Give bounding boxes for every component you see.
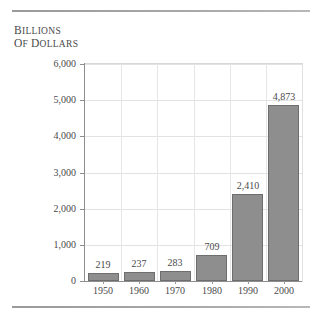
y-tick-label: 4,000	[28, 130, 76, 141]
y-tick-label: 3,000	[28, 167, 76, 178]
y-tick-label: 6,000	[28, 58, 76, 69]
x-axis-tick	[175, 281, 176, 284]
x-axis-tick	[248, 281, 249, 284]
bar	[268, 105, 299, 281]
y-tick-label: 2,000	[28, 203, 76, 214]
y-axis-tick	[80, 100, 84, 101]
y-tick-label: 1,000	[28, 239, 76, 250]
gridline-vertical	[121, 64, 122, 281]
y-axis-tick	[80, 281, 84, 282]
y-axis-title-line1: BILLIONS	[14, 24, 61, 36]
bar	[124, 272, 155, 281]
y-axis-tick	[80, 209, 84, 210]
top-divider-rule	[12, 10, 310, 12]
bar	[196, 255, 227, 281]
x-axis-tick	[139, 281, 140, 284]
bottom-divider-rule	[12, 306, 310, 308]
chart-figure: BILLIONS OF DOLLARS 01,0002,0003,0004,00…	[0, 0, 319, 317]
bar-value-label: 4,873	[256, 91, 312, 102]
x-tick-label: 2000	[256, 285, 312, 296]
x-axis-line	[84, 281, 303, 282]
gridline-vertical	[157, 64, 158, 281]
y-tick-label: 5,000	[28, 94, 76, 105]
bar	[88, 273, 119, 281]
y-axis-tick	[80, 136, 84, 137]
y-axis-tick	[80, 64, 84, 65]
bar-value-label: 283	[147, 257, 203, 268]
x-axis-tick	[212, 281, 213, 284]
x-axis-tick	[103, 281, 104, 284]
y-axis-title-line1-text: ILLIONS	[22, 26, 61, 36]
y-axis-tick	[80, 245, 84, 246]
y-tick-label: 0	[28, 275, 76, 286]
bar	[160, 271, 191, 281]
x-axis-tick	[284, 281, 285, 284]
y-axis-title-line2: OF DOLLARS	[14, 37, 78, 49]
y-axis-title-initial: B	[14, 24, 22, 36]
bar	[232, 194, 263, 281]
y-axis-tick	[80, 173, 84, 174]
